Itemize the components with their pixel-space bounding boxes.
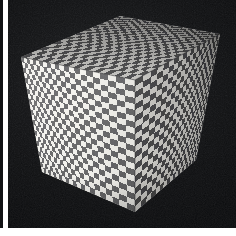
figure-bottom-margin xyxy=(0,228,236,236)
cube-illustration xyxy=(8,0,236,228)
image-panel xyxy=(8,0,236,228)
cube-edge-falloff xyxy=(21,16,220,212)
figure-container xyxy=(0,0,236,236)
cube-body xyxy=(8,0,236,228)
